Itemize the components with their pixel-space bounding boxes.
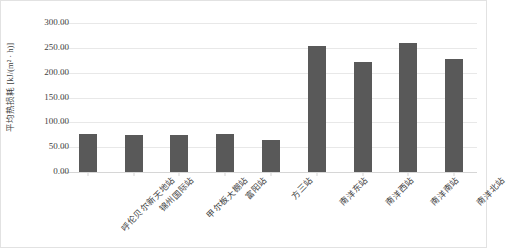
bar-slot	[294, 23, 340, 172]
bar-slot	[202, 23, 248, 172]
y-axis-tick-label: 50.00	[21, 142, 69, 151]
bar[interactable]	[79, 134, 97, 172]
bar-slot	[157, 23, 203, 172]
bar[interactable]	[125, 135, 143, 172]
bar[interactable]	[308, 46, 326, 172]
plot-area	[65, 23, 477, 172]
bar-slot	[248, 23, 294, 172]
y-axis-tick-label: 100.00	[21, 117, 69, 126]
y-axis-title-text: 平均热损耗 [kJ/(m² · h)]	[6, 43, 15, 132]
x-axis-category-label: 甲尔板大棚站	[205, 175, 250, 220]
bar-series	[65, 23, 477, 172]
x-axis-category-labels: 呼伦贝尔新天地站锦州国际站甲尔板大棚站富阳站方三站南洋东站南洋西站南洋南站南洋北…	[65, 172, 477, 248]
x-axis-category-label: 南洋东站	[337, 175, 370, 208]
bar[interactable]	[262, 140, 280, 172]
y-axis-tick-label: 250.00	[21, 43, 69, 52]
y-axis-tick-label: 200.00	[21, 68, 69, 77]
bar[interactable]	[216, 134, 234, 172]
x-axis-category-label: 方三站	[289, 175, 315, 201]
y-axis-tick-label: 0.00	[21, 167, 69, 176]
bar-slot	[431, 23, 477, 172]
bar[interactable]	[170, 135, 188, 172]
x-axis-category-label: 南洋西站	[383, 175, 416, 208]
x-axis-category-label: 南洋南站	[429, 175, 462, 208]
bar-slot	[111, 23, 157, 172]
bar[interactable]	[399, 43, 417, 172]
bar-slot	[65, 23, 111, 172]
bar[interactable]	[445, 59, 463, 172]
x-axis-category-label: 南洋北站	[475, 175, 507, 208]
y-axis-title: 平均热损耗 [kJ/(m² · h)]	[1, 1, 19, 173]
y-axis-tick-label: 300.00	[21, 18, 69, 27]
y-axis-tick-label: 150.00	[21, 93, 69, 102]
bar-slot	[385, 23, 431, 172]
bar[interactable]	[354, 62, 372, 172]
bar-slot	[340, 23, 386, 172]
